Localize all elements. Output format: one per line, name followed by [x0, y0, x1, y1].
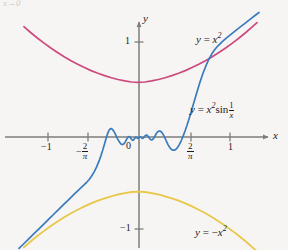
ytick-label-neg1: −1 [120, 223, 131, 233]
annotation-y-equals-x-squared: y = x2 [196, 32, 221, 45]
xtick-label-2overpi: 2π [187, 142, 194, 162]
axes-group [5, 22, 268, 248]
ytick-label-1: 1 [125, 36, 130, 46]
annotation-y-equals-neg-x-squared: y = −x2 [195, 225, 227, 238]
curve-x-squared [24, 23, 257, 83]
annotation-y-equals-x-squared-sin-inverse-x: y = x2sin1x [190, 101, 234, 120]
y-axis-label: y [143, 13, 148, 24]
curve-neg-x-squared [24, 192, 256, 250]
plot-canvas [0, 0, 288, 250]
origin-label: 0 [126, 141, 131, 151]
fraction-1-over-x: 1x [229, 101, 233, 120]
squeeze-theorem-figure: x→0 x y 0 −1 [0, 0, 288, 250]
xtick-label-neg1: −1 [41, 142, 52, 152]
x-axis-label: x [273, 130, 278, 141]
xtick-label-1: 1 [228, 142, 233, 152]
fraction-2-over-pi: 2π [187, 142, 194, 162]
fraction-2-over-pi-neg: 2π [82, 142, 89, 162]
xtick-label-neg2overpi: −2π [76, 142, 88, 162]
